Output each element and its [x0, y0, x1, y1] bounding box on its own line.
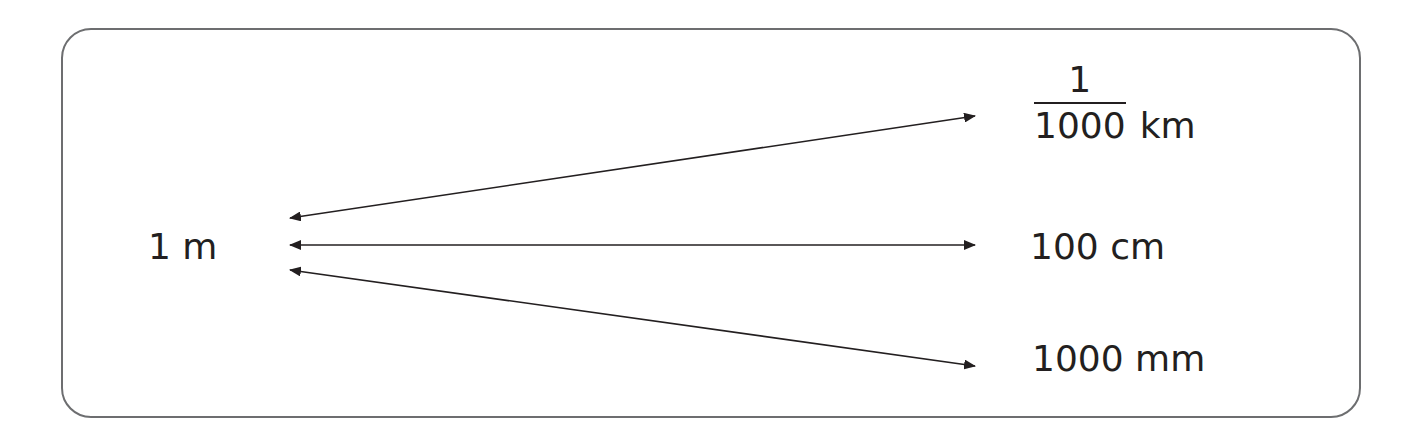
target-km: 1 1000 km: [1034, 62, 1196, 144]
fraction: 1 1000: [1034, 62, 1126, 144]
fraction-numerator: 1: [1068, 62, 1091, 102]
target-mm: 1000 mm: [1032, 341, 1205, 377]
source-label: 1 m: [148, 229, 217, 265]
arrow-to-km: [290, 116, 975, 218]
fraction-denominator: 1000: [1034, 102, 1126, 144]
arrow-to-mm: [290, 270, 975, 366]
target-cm: 100 cm: [1030, 229, 1165, 265]
unit-km: km: [1140, 108, 1196, 144]
